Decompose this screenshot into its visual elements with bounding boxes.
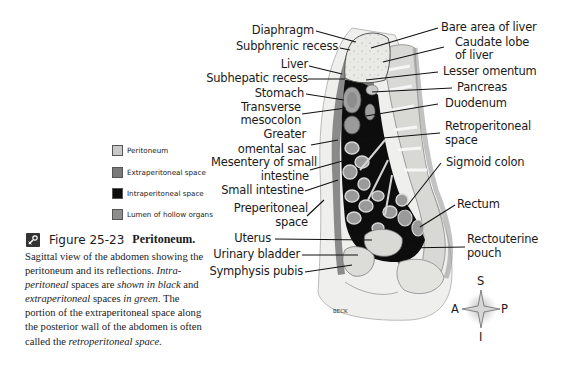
- label-caudate-lobe-2: of liver: [455, 49, 493, 63]
- compass-inferior: I: [479, 330, 482, 344]
- legend-label: Lumen of hollow organs: [127, 210, 213, 219]
- legend-swatch-intraperitoneal: [112, 188, 123, 199]
- label-duodenum: Duodenum: [445, 97, 507, 111]
- legend-label: Peritoneum: [127, 146, 168, 155]
- caption-part: spaces are: [69, 279, 118, 290]
- interactive-link-icon[interactable]: [26, 233, 40, 247]
- compass-posterior: P: [501, 302, 508, 316]
- legend-swatch-lumen: [112, 209, 123, 220]
- label-rectouterine-pouch-2: pouch: [467, 247, 501, 261]
- compass-anterior: A: [451, 302, 459, 316]
- figure-heading: Figure 25-23 Peritoneum.: [26, 232, 195, 247]
- caption-part: and: [181, 279, 199, 290]
- caption-part: shown in black: [117, 279, 181, 290]
- label-symphysis-pubis: Symphysis pubis: [209, 265, 303, 279]
- compass-star: [462, 290, 500, 328]
- label-liver: Liver: [281, 58, 308, 72]
- label-urinary-bladder: Urinary bladder: [213, 248, 300, 262]
- caption-part: extraperitoneal: [25, 293, 90, 304]
- legend-swatch-peritoneum: [112, 145, 123, 156]
- label-preperitoneal-space-1: Preperitoneal: [234, 202, 308, 216]
- label-diaphragm: Diaphragm: [252, 24, 314, 38]
- compass-superior: S: [477, 274, 484, 288]
- duodenum: [365, 104, 375, 120]
- label-rectouterine-pouch-1: Rectouterine: [467, 233, 538, 247]
- label-lesser-omentum: Lesser omentum: [443, 65, 537, 79]
- legend-label: Intraperitoneal space: [127, 189, 204, 198]
- legend-item-intraperitoneal: Intraperitoneal space: [112, 186, 204, 200]
- label-rectum: Rectum: [457, 198, 500, 212]
- label-stomach: Stomach: [255, 87, 304, 101]
- label-uterus: Uterus: [234, 232, 271, 246]
- label-sigmoid-colon: Sigmoid colon: [446, 156, 524, 170]
- label-mesentery-small-intestine-1: Mesentery of small: [211, 156, 317, 170]
- pancreas: [366, 85, 378, 95]
- legend-item-extraperitoneal: Extraperitoneal space: [112, 165, 206, 179]
- label-mesentery-small-intestine-2: intestine: [261, 170, 309, 184]
- label-small-intestine: Small intestine: [221, 184, 304, 198]
- caption-part: in green.: [123, 293, 160, 304]
- label-subphrenic-recess: Subphrenic recess: [236, 40, 338, 54]
- legend-label: Extraperitoneal space: [127, 168, 206, 177]
- label-transverse-mesocolon-2: mesocolon: [241, 114, 301, 128]
- legend-item-peritoneum: Peritoneum: [112, 143, 168, 157]
- label-bare-area-of-liver: Bare area of liver: [441, 21, 537, 35]
- legend-item-lumen: Lumen of hollow organs: [112, 207, 213, 221]
- figure-title: Peritoneum.: [132, 232, 195, 247]
- caption-part: spaces: [90, 293, 123, 304]
- figure-number: Figure 25-23: [49, 233, 124, 247]
- rectum: [412, 220, 424, 236]
- label-retroperitoneal-space-2: space: [445, 134, 478, 148]
- sigmoid-colon: [398, 210, 412, 226]
- label-subhepatic-recess: Subhepatic recess: [206, 72, 308, 86]
- label-preperitoneal-space-2: space: [275, 216, 308, 230]
- label-pancreas: Pancreas: [457, 81, 507, 95]
- label-greater-omental-sac-1: Greater: [264, 128, 306, 142]
- label-retroperitoneal-space-1: Retroperitoneal: [445, 120, 531, 134]
- transverse-colon: [344, 116, 360, 134]
- figure-caption: Sagittal view of the abdomen showing the…: [25, 250, 205, 349]
- caption-part: retroperitoneal space.: [69, 336, 162, 347]
- artist-signature: BECK: [333, 308, 348, 314]
- legend-swatch-extraperitoneal: [112, 167, 123, 178]
